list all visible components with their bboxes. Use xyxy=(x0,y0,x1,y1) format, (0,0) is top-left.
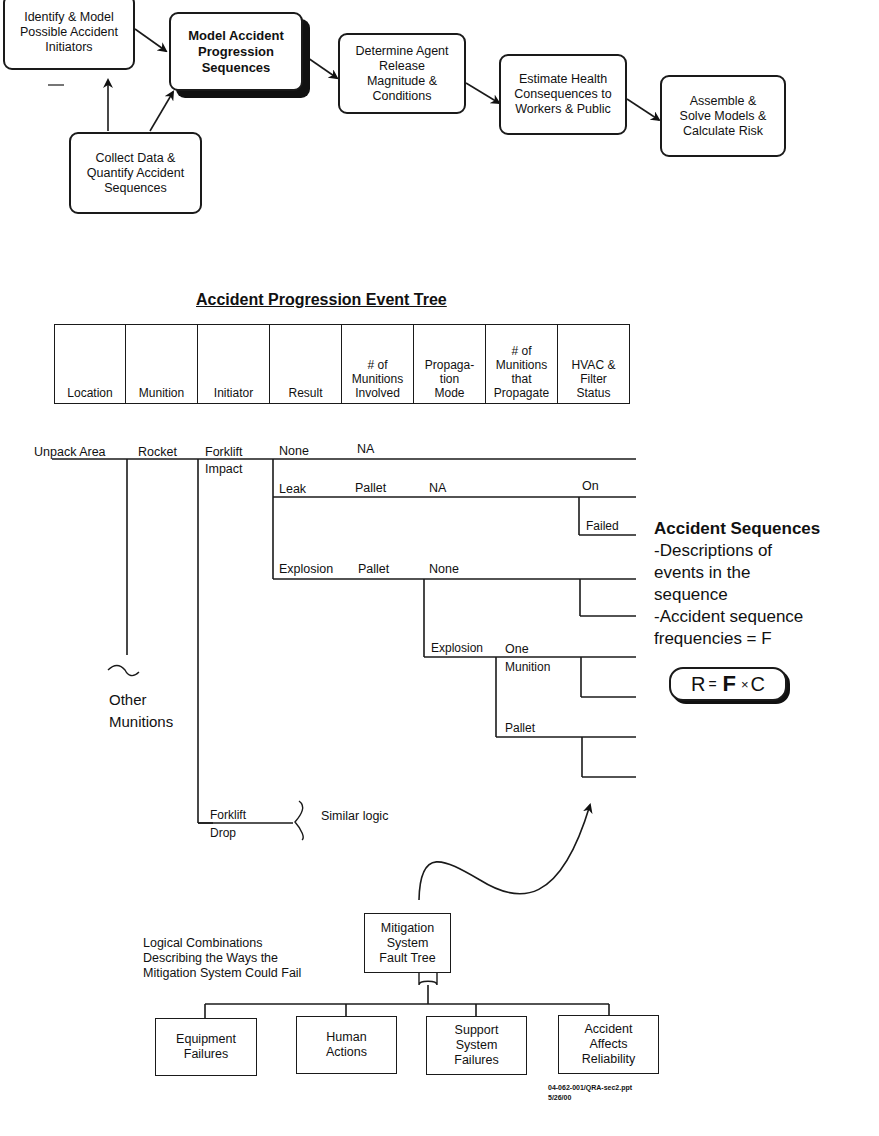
step-estimate-health: Estimate Health Consequences to Workers … xyxy=(499,54,627,135)
label-mode-none: None xyxy=(429,562,459,576)
note-line: -Accident sequence xyxy=(654,606,820,628)
accident-sequences-note: Accident Sequences -Descriptions of even… xyxy=(654,518,820,650)
header-location: Location xyxy=(55,325,126,404)
label-initiator-forklift: Forklift xyxy=(205,445,243,459)
label-na: NA xyxy=(357,442,374,456)
note-line: frequencies = F xyxy=(654,628,820,650)
label-similar-logic: Similar logic xyxy=(321,809,388,823)
footer-file: 04-062-001/QRA-sec2.ppt xyxy=(548,1083,632,1093)
step-assemble-solve: Assemble & Solve Models & Calculate Risk xyxy=(660,75,786,157)
step-identify-initiators: Identify & Model Possible Accident Initi… xyxy=(3,0,135,70)
fault-equipment-failures: EquipmentFailures xyxy=(155,1018,257,1076)
header-initiator: Initiator xyxy=(198,325,270,404)
fault-tree-top-box: Mitigation System Fault Tree xyxy=(364,913,451,973)
step-text: Assemble & xyxy=(680,94,767,109)
label-hvac-on: On xyxy=(582,479,599,493)
footer-date: 5/26/00 xyxy=(548,1093,632,1103)
arrow-estimate-to-assemble xyxy=(627,99,659,120)
step-text: Calculate Risk xyxy=(680,124,767,139)
footer-note: 04-062-001/QRA-sec2.ppt 5/26/00 xyxy=(548,1083,632,1103)
arrow-determine-to-estimate xyxy=(466,83,499,103)
label-propagate-pallet: Pallet xyxy=(505,721,535,735)
fault-support-system-failures: SupportSystemFailures xyxy=(426,1016,527,1075)
label-hvac-failed: Failed xyxy=(586,519,619,533)
arrow-identify-to-model xyxy=(135,29,166,51)
note-line: events in the xyxy=(654,562,820,584)
header-munition: Munition xyxy=(126,325,198,404)
step-text: Conditions xyxy=(355,89,448,104)
step-text: Progression xyxy=(188,44,284,60)
label-initiator-impact: Impact xyxy=(205,462,243,476)
label-propagate-one: One xyxy=(505,642,529,656)
step-text: Sequences xyxy=(87,181,184,196)
label-result-none: None xyxy=(279,444,309,458)
label-result-leak: Leak xyxy=(279,482,306,496)
step-determine-release: Determine Agent Release Magnitude & Cond… xyxy=(338,33,466,114)
label-leak-pallet: Pallet xyxy=(355,481,386,495)
fault-accident-affects-reliability: AccidentAffectsReliability xyxy=(558,1015,659,1074)
arrow-collect-to-model xyxy=(150,92,173,131)
label-result-explosion: Explosion xyxy=(279,562,333,576)
fault-tree-caption: Logical Combinations Describing the Ways… xyxy=(143,936,301,981)
label-location: Unpack Area xyxy=(34,445,106,459)
label-forklift-drop-a: Forklift xyxy=(210,808,246,822)
step-text: Identify & Model xyxy=(20,10,118,25)
risk-formula: R = F × C xyxy=(669,667,787,701)
note-line: sequence xyxy=(654,584,820,606)
header-hvac-filter: HVAC &FilterStatus xyxy=(558,325,630,404)
arrow-model-to-determine xyxy=(308,58,337,78)
header-munitions-propagate: # ofMunitionsthatPropagate xyxy=(486,325,558,404)
step-model-progression: Model Accident Progression Sequences xyxy=(169,12,303,91)
step-text: Model Accident xyxy=(188,28,284,44)
step-text: Workers & Public xyxy=(514,102,611,117)
label-explosion-pallet: Pallet xyxy=(358,562,389,576)
step-text: Initiators xyxy=(20,40,118,55)
accident-sequences-heading: Accident Sequences xyxy=(654,518,820,540)
step-text: Estimate Health xyxy=(514,72,611,87)
header-result: Result xyxy=(270,325,342,404)
step-text: Consequences to xyxy=(514,87,611,102)
step-text: Release xyxy=(355,59,448,74)
label-propagate-munition: Munition xyxy=(505,660,550,674)
label-leak-na: NA xyxy=(429,481,446,495)
header-munitions-involved: # ofMunitionsInvolved xyxy=(342,325,414,404)
label-munition: Rocket xyxy=(138,445,177,459)
step-text: Solve Models & xyxy=(680,109,767,124)
step-text: Quantify Accident xyxy=(87,166,184,181)
label-mode-explosion: Explosion xyxy=(431,641,483,655)
fault-human-actions: HumanActions xyxy=(296,1016,397,1074)
step-text: Sequences xyxy=(188,60,284,76)
step-text: Determine Agent xyxy=(355,44,448,59)
label-forklift-drop-b: Drop xyxy=(210,826,236,840)
step-text: Possible Accident xyxy=(20,25,118,40)
note-line: -Descriptions of xyxy=(654,540,820,562)
step-text: Magnitude & xyxy=(355,74,448,89)
step-text: Collect Data & xyxy=(87,151,184,166)
event-tree-header: Location Munition Initiator Result # ofM… xyxy=(54,324,630,404)
step-collect-data: Collect Data & Quantify Accident Sequenc… xyxy=(69,132,202,214)
event-tree-title: Accident Progression Event Tree xyxy=(196,291,447,309)
label-other-munitions: Other Munitions xyxy=(109,689,173,733)
header-propagation-mode: Propaga-tionMode xyxy=(414,325,486,404)
